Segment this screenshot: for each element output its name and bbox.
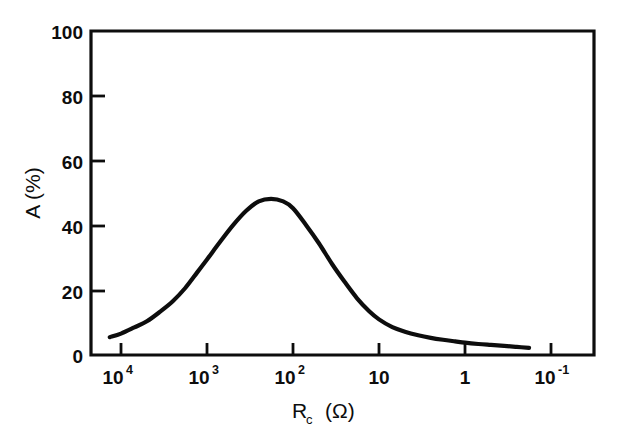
y-axis-title: A (%) bbox=[21, 167, 44, 218]
y-tick-label-20: 20 bbox=[62, 282, 83, 303]
x-axis-title-unit: (Ω) bbox=[325, 399, 355, 422]
y-tick-label-0: 0 bbox=[72, 346, 83, 367]
y-tick-label-100: 100 bbox=[51, 22, 83, 43]
y-tick-label-80: 80 bbox=[62, 87, 83, 108]
x-tick-exponent: 2 bbox=[298, 363, 305, 377]
x-tick-label-1e1: 10 bbox=[368, 367, 389, 388]
y-tick-labels: 100 80 60 40 20 0 bbox=[51, 22, 83, 367]
x-tick-label-1em1: 10 -1 bbox=[534, 363, 569, 388]
x-tick-label-1e0: 1 bbox=[460, 367, 471, 388]
x-tick-mantissa: 10 bbox=[534, 367, 555, 388]
x-tick-label-1e2: 10 2 bbox=[274, 363, 305, 388]
y-tick-label-40: 40 bbox=[62, 217, 83, 238]
x-tick-label-1e4: 10 4 bbox=[102, 363, 133, 388]
x-tick-exponent: -1 bbox=[558, 363, 569, 377]
x-tick-mantissa: 10 bbox=[274, 367, 295, 388]
chart-canvas: 100 80 60 40 20 0 10 4 10 3 10 2 10 bbox=[0, 0, 619, 440]
x-tick-mantissa: 10 bbox=[102, 367, 123, 388]
figure-container: 100 80 60 40 20 0 10 4 10 3 10 2 10 bbox=[0, 0, 619, 440]
x-axis-title: R c (Ω) bbox=[292, 399, 355, 427]
y-tick-label-60: 60 bbox=[62, 152, 83, 173]
y-axis-ticks bbox=[91, 96, 105, 291]
x-tick-mantissa: 10 bbox=[368, 367, 389, 388]
x-tick-exponent: 3 bbox=[212, 363, 219, 377]
x-axis-title-base: R bbox=[292, 399, 307, 422]
x-tick-labels: 10 4 10 3 10 2 10 1 10 -1 bbox=[102, 363, 569, 388]
x-tick-label-1e3: 10 3 bbox=[188, 363, 219, 388]
data-curve-A bbox=[110, 199, 529, 348]
x-tick-mantissa: 10 bbox=[188, 367, 209, 388]
x-tick-exponent: 4 bbox=[126, 363, 133, 377]
x-axis-title-subscript: c bbox=[306, 412, 313, 427]
x-tick-mantissa: 1 bbox=[460, 367, 471, 388]
